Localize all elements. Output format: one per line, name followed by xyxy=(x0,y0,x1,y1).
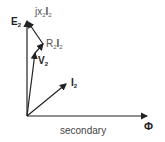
phi-label: Φ xyxy=(144,121,153,131)
jx2i2-drop xyxy=(28,22,43,44)
jx2i2-label: jx2I2 xyxy=(35,7,52,20)
i2-phasor xyxy=(27,84,66,116)
r2i2-label: R2I2 xyxy=(46,39,63,52)
r2i2-drop xyxy=(35,44,43,53)
e2-label: E2 xyxy=(11,17,21,30)
phasor-diagram xyxy=(0,0,165,142)
v2-phasor xyxy=(27,53,35,116)
caption: secondary xyxy=(60,126,106,136)
v2-label: V2 xyxy=(38,56,48,69)
i2-label: I2 xyxy=(71,78,77,91)
